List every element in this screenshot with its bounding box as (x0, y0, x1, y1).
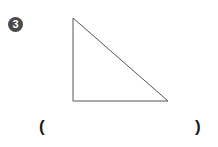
answer-close-paren: ) (195, 117, 201, 137)
answer-blank[interactable] (52, 118, 192, 136)
triangle-shape (73, 18, 168, 101)
answer-open-paren: ( (39, 117, 45, 137)
